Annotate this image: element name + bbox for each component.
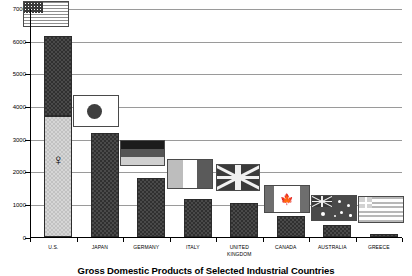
ytick-label-5000: 5000 (2, 71, 26, 77)
xtick-1 (77, 238, 78, 242)
xtick-8 (402, 238, 403, 242)
y-axis-line (30, 9, 31, 238)
xtick-label-canada: CANADA (263, 244, 310, 251)
bar-germany[interactable] (137, 178, 165, 237)
xtick-label-italy: ITALY (170, 244, 217, 251)
flag-canada-icon: 🍁 (264, 185, 310, 213)
bar-japan[interactable] (91, 133, 119, 237)
gridline-7000 (30, 9, 402, 10)
bar-germany-segment (137, 178, 165, 237)
female-symbol-icon: ♀ (52, 152, 63, 167)
bar-italy[interactable] (184, 199, 212, 237)
xtick-label-united-kingdom: UNITED KINGDOM (216, 244, 263, 257)
bar-japan-segment (91, 133, 119, 237)
bar-united-kingdom[interactable] (230, 203, 258, 237)
flag-greece-icon (358, 196, 404, 223)
ytick-label-0: 0 (2, 235, 26, 241)
xtick-3 (170, 238, 171, 242)
xtick-0 (30, 238, 31, 242)
bar-canada[interactable] (277, 216, 305, 237)
ytick-label-2000: 2000 (2, 169, 26, 175)
bar-us[interactable]: ♀ (44, 36, 72, 237)
xtick-6 (309, 238, 310, 242)
flag-australia-icon (311, 195, 357, 221)
bar-united-kingdom-segment (230, 203, 258, 237)
xtick-4 (216, 238, 217, 242)
flag-japan-icon (73, 95, 119, 127)
xtick-label-us: U.S. (30, 244, 77, 251)
ytick-label-6000: 6000 (2, 39, 26, 45)
gridline-6000 (30, 42, 402, 43)
xtick-label-united-kingdom-line1: UNITED (230, 244, 249, 250)
xtick-label-greece: GREECE (356, 244, 403, 251)
bar-italy-segment (184, 199, 212, 237)
plot-area: 7000 6000 5000 4000 3000 2000 1000 0 ♀ (30, 9, 402, 237)
maple-leaf-icon: 🍁 (280, 194, 294, 205)
bar-australia-segment (323, 225, 351, 237)
xtick-5 (263, 238, 264, 242)
gridline-3000 (30, 140, 402, 141)
x-axis-area: U.S. JAPAN GERMANY ITALY UNITED KINGDOM … (30, 238, 402, 258)
chart-title: Gross Domestic Products of Selected Indu… (0, 265, 412, 276)
xtick-label-germany: GERMANY (123, 244, 170, 251)
ytick-label-4000: 4000 (2, 104, 26, 110)
bar-australia[interactable] (323, 225, 351, 237)
gdp-bar-chart: 7000 6000 5000 4000 3000 2000 1000 0 ♀ (0, 0, 412, 276)
xtick-2 (123, 238, 124, 242)
flag-uk-icon (216, 164, 260, 191)
xtick-label-japan: JAPAN (77, 244, 124, 251)
bar-us-upper-segment (44, 36, 72, 116)
flag-italy-icon (167, 159, 213, 189)
ytick-label-1000: 1000 (2, 202, 26, 208)
xtick-7 (356, 238, 357, 242)
bar-us-lower-segment: ♀ (44, 116, 72, 237)
ytick-label-3000: 3000 (2, 137, 26, 143)
xtick-label-australia: AUSTRALIA (309, 244, 356, 251)
bar-canada-segment (277, 216, 305, 237)
gridline-5000 (30, 74, 402, 75)
flag-germany-icon (120, 140, 165, 166)
xtick-label-united-kingdom-line2: KINGDOM (227, 251, 252, 257)
